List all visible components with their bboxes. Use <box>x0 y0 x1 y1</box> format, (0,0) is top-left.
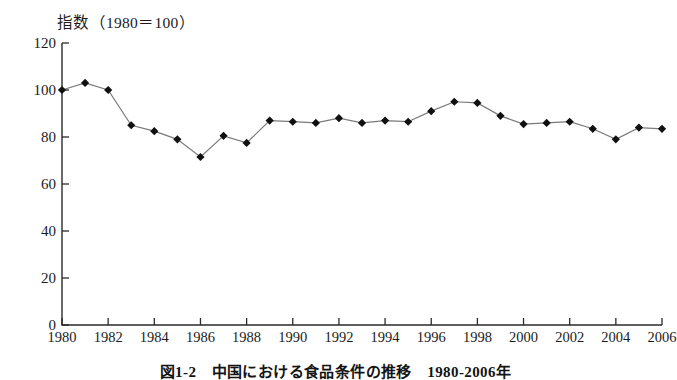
line-chart-svg <box>62 43 662 325</box>
x-axis-tick-labels: 1980198219841986198819901992199419961998… <box>62 330 662 352</box>
y-axis-tick-label: 100 <box>10 83 56 98</box>
y-axis-tick-label: 120 <box>10 36 56 51</box>
x-axis-tick-label: 1996 <box>417 330 446 345</box>
x-axis-tick-label: 2004 <box>601 330 630 345</box>
x-axis-tick-label: 1994 <box>371 330 400 345</box>
data-point-marker <box>612 135 620 143</box>
x-axis-tick-label: 2002 <box>555 330 584 345</box>
data-point-marker <box>104 86 112 94</box>
x-axis-tick-label: 1992 <box>324 330 353 345</box>
data-point-marker <box>335 114 343 122</box>
x-axis-tick-label: 1982 <box>94 330 123 345</box>
y-axis-tick-label: 20 <box>10 271 56 286</box>
x-axis-tick-label: 1998 <box>463 330 492 345</box>
data-point-marker <box>473 99 481 107</box>
x-axis-tick-label: 1986 <box>186 330 215 345</box>
data-point-marker <box>450 98 458 106</box>
data-point-marker <box>150 127 158 135</box>
y-axis-ticks <box>62 43 69 325</box>
plot-area <box>62 43 662 325</box>
data-point-marker <box>81 79 89 87</box>
chart-axis-title: 指数（1980＝100） <box>57 10 195 32</box>
data-point-marker <box>519 120 527 128</box>
x-axis-tick-label: 2000 <box>509 330 538 345</box>
y-axis-tick-label: 40 <box>10 224 56 239</box>
data-point-marker <box>427 107 435 115</box>
x-axis-ticks <box>62 318 662 325</box>
data-point-marker <box>658 125 666 133</box>
figure-caption: 図1-2 中国における食品条件の推移 1980-2006年 <box>0 360 671 380</box>
data-point-marker <box>566 118 574 126</box>
data-point-marker <box>381 116 389 124</box>
data-point-markers <box>58 79 666 161</box>
axis-spine <box>62 43 662 325</box>
y-axis-tick-label: 80 <box>10 130 56 145</box>
axis-lines <box>62 43 662 325</box>
data-point-marker <box>589 125 597 133</box>
data-point-marker <box>404 118 412 126</box>
data-point-marker <box>543 119 551 127</box>
y-axis-tick-label: 60 <box>10 177 56 192</box>
data-point-marker <box>358 119 366 127</box>
data-point-marker <box>58 86 66 94</box>
data-point-marker <box>635 124 643 132</box>
x-axis-tick-label: 1990 <box>278 330 307 345</box>
x-axis-tick-label: 1984 <box>140 330 169 345</box>
data-point-marker <box>496 112 504 120</box>
y-axis-tick-labels: 020406080100120 <box>4 43 56 325</box>
x-axis-tick-label: 2006 <box>648 330 677 345</box>
data-point-marker <box>127 121 135 129</box>
data-point-marker <box>312 119 320 127</box>
x-axis-tick-label: 1988 <box>232 330 261 345</box>
data-point-marker <box>289 118 297 126</box>
x-axis-tick-label: 1980 <box>48 330 77 345</box>
